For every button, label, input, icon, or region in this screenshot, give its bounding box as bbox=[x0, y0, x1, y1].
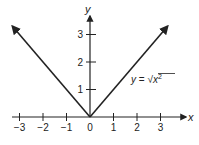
y-tick-label: 1 bbox=[77, 84, 83, 95]
x-axis-label: x bbox=[187, 111, 194, 123]
equation-equals: = bbox=[136, 74, 147, 85]
x-tick-label: 1 bbox=[111, 122, 117, 133]
chart: −3−2−10123123 x y y = √x2 bbox=[0, 0, 199, 145]
x-tick-label: −3 bbox=[14, 122, 26, 133]
equation-exponent: 2 bbox=[158, 73, 162, 80]
x-tick-label: −1 bbox=[61, 122, 73, 133]
x-tick-label: 0 bbox=[87, 122, 93, 133]
series-line-segment bbox=[90, 26, 168, 117]
x-tick-label: 2 bbox=[134, 122, 140, 133]
equation-annotation: y = √x2 bbox=[130, 73, 162, 85]
y-tick-label: 2 bbox=[77, 57, 83, 68]
x-tick-label: 3 bbox=[158, 122, 164, 133]
y-tick-label: 3 bbox=[77, 29, 83, 40]
axes bbox=[12, 16, 186, 117]
y-axis-label: y bbox=[84, 3, 92, 15]
x-tick-label: −2 bbox=[37, 122, 49, 133]
